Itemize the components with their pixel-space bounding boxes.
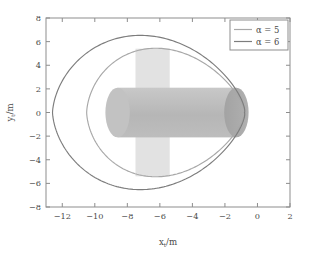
y-tick-label: 8 [36,13,41,23]
chart-canvas: −12−10−8−6−4−202 −8−6−4−202468 xt/m yt/m… [0,0,309,261]
y-tick-label: 2 [36,84,41,94]
y-tick-label: 4 [36,60,41,70]
y-tick-label: 0 [36,108,41,118]
cylinder-left-cap-shape [105,88,129,138]
legend-label-alpha-5: α = 5 [256,25,279,35]
x-tick-label: 2 [287,211,292,221]
y-tick-label: −2 [29,131,41,141]
y-axis-label-unit: /m [5,103,15,114]
svg-text:yt/m: yt/m [5,103,16,122]
y-tick-label: −4 [29,155,41,165]
svg-text:xt/m: xt/m [159,237,177,248]
y-tick-label: −8 [29,202,41,212]
x-tick-label: −8 [121,211,133,221]
x-tick-label: 0 [255,211,260,221]
figure-container: −12−10−8−6−4−202 −8−6−4−202468 xt/m yt/m… [0,0,309,261]
cylinder-body-shape [118,88,237,138]
x-tick-label: −12 [54,211,71,221]
legend-label-alpha-6: α = 6 [256,37,279,47]
y-tick-label: 6 [36,37,41,47]
legend[interactable]: α = 5 α = 6 [230,20,288,50]
x-tick-label: −10 [86,211,103,221]
x-axis-label-unit: /m [166,237,177,247]
x-tick-label: −2 [219,211,231,221]
x-tick-label: −4 [186,211,198,221]
y-tick-label: −6 [29,178,41,188]
x-axis-label: xt/m [159,237,177,248]
x-tick-label: −6 [154,211,166,221]
y-axis-label: yt/m [5,103,16,122]
